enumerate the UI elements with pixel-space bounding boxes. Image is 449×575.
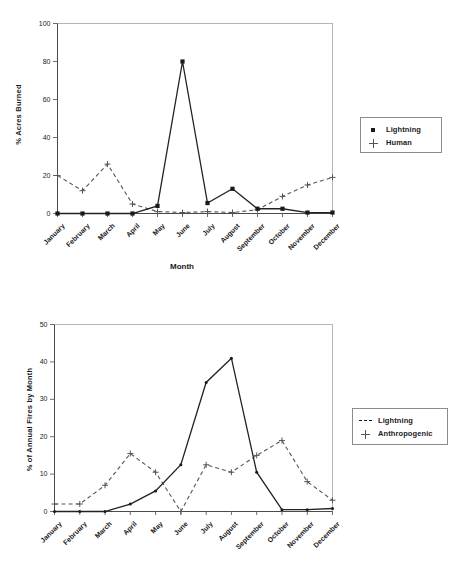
x-tick-label: December [293,520,340,567]
data-point-marker [331,507,334,510]
dash-marker-icon [358,416,374,426]
data-point-marker [153,469,159,475]
data-point-marker [104,510,107,513]
data-point-marker [205,381,208,384]
x-tick-label: November [268,520,315,567]
data-point-marker [180,210,186,216]
data-point-marker [55,211,59,215]
bottom-chart-plot-area [0,290,340,525]
data-point-marker [179,463,182,466]
data-point-marker [280,193,286,199]
data-point-marker [180,59,184,63]
legend-label-anthropogenic: Anthropogenic [378,429,433,438]
legend-label-human: Human [386,138,412,147]
top-chart-series-lightning [55,59,334,215]
data-point-marker [254,452,260,458]
data-point-marker [78,510,81,513]
data-point-marker [330,497,336,503]
data-point-marker [230,187,234,191]
data-point-marker [330,210,334,214]
data-point-marker [205,201,209,205]
top-chart-series-human [55,161,336,215]
figure-acres-burned: % Acres Burned [0,0,449,290]
top-chart-plot-area [0,0,340,230]
data-point-marker [203,462,209,468]
y-tick-label: 40 [24,134,51,141]
y-tick-label: 20 [21,433,48,440]
data-point-marker [155,204,159,208]
legend-item-lightning[interactable]: Lightning [366,123,434,136]
legend-label-lightning: Lightning [378,416,413,425]
top-chart-svg [0,0,340,230]
data-point-marker [105,161,111,167]
x-tick-label: April [91,520,138,567]
data-point-marker [52,501,58,507]
y-tick-label: 30 [21,395,48,402]
data-point-marker [280,508,283,511]
y-tick-label: 100 [24,20,51,27]
data-point-marker [55,173,61,179]
bottom-chart-series-lightning [53,357,334,513]
plus-marker-icon [358,429,374,439]
data-point-marker [53,510,56,513]
data-point-marker [129,503,132,506]
data-point-marker [80,188,86,194]
data-point-marker [130,201,136,207]
bottom-chart-svg [0,290,340,525]
data-point-marker [305,210,309,214]
y-tick-label: 20 [24,172,51,179]
y-tick-label: 60 [24,96,51,103]
data-point-marker [178,509,184,515]
data-point-marker [305,182,311,188]
y-tick-label: 0 [24,210,51,217]
x-tick-label: October [243,520,290,567]
data-point-marker [105,211,109,215]
data-point-marker [306,508,309,511]
y-tick-label: 10 [21,470,48,477]
data-point-marker [80,211,84,215]
x-tick-label: May [116,520,163,567]
y-tick-label: 0 [21,508,48,515]
x-tick-label: March [66,520,113,567]
y-tick-label: 50 [21,321,48,328]
y-tick-label: 80 [24,58,51,65]
data-point-marker [255,207,259,211]
legend-label-lightning: Lightning [386,125,421,134]
x-tick-label: September [217,520,264,567]
data-point-marker [255,471,258,474]
legend-item-lightning[interactable]: Lightning [358,414,440,427]
data-point-marker [279,437,285,443]
legend-item-anthropogenic[interactable]: Anthropogenic [358,427,440,440]
data-point-marker [230,210,236,216]
data-point-marker [280,207,284,211]
legend-item-human[interactable]: Human [366,136,434,149]
x-tick-label: January [15,520,62,567]
data-point-marker [330,174,336,180]
x-tick-label: August [192,520,239,567]
top-chart-x-axis-label: Month [170,262,194,271]
data-point-marker [228,469,234,475]
figure-annual-fires: % of Annual Fires by Month [0,290,449,575]
data-point-marker [230,357,233,360]
y-tick-label: 40 [21,358,48,365]
plus-marker-icon [366,138,382,148]
filled-square-marker-icon [366,125,382,135]
x-tick-label: February [40,520,87,567]
data-point-marker [130,211,134,215]
bottom-chart-legend: Lightning Anthropogenic [352,408,448,445]
x-tick-label: July [167,520,214,567]
top-chart-legend: Lightning Human [360,117,442,153]
x-tick-label: June [141,520,188,567]
data-point-marker [154,489,157,492]
bottom-chart-series-anthropogenic [52,437,336,514]
